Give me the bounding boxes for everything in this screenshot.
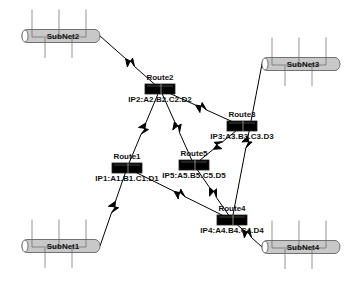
- router-name-route4: Route4: [218, 205, 245, 213]
- router-ip-route2: IP2:A2.B2.C2.D2: [128, 96, 192, 104]
- link-subnet3-route4: [232, 64, 262, 220]
- router-ip-route4: IP4:A4.B4.C4.D4: [200, 227, 264, 235]
- subnet-label-subnet1: SubNet1: [47, 243, 79, 251]
- router-name-route5: Route5: [180, 150, 207, 158]
- network-diagram: [0, 0, 358, 282]
- router-ip-route3: IP3:A3.B3.C3.D3: [210, 133, 274, 141]
- router-route4: [217, 215, 247, 225]
- router-name-route1: Route1: [113, 153, 140, 161]
- router-ip-route1: IP1:A1.B1.C1.D1: [95, 175, 159, 183]
- router-name-route2: Route2: [146, 74, 173, 82]
- router-name-route3: Route3: [228, 111, 255, 119]
- subnet-label-subnet2: SubNet2: [47, 33, 79, 41]
- router-route1: [112, 163, 142, 173]
- subnet-label-subnet4: SubNet4: [287, 244, 319, 252]
- router-ip-route5: IP5:A5.B5.C5.D5: [162, 172, 226, 180]
- router-route5: [179, 160, 209, 170]
- router-route3: [227, 121, 257, 131]
- subnets-layer: [22, 10, 340, 270]
- subnet-label-subnet3: SubNet3: [287, 61, 319, 69]
- router-route2: [145, 84, 175, 94]
